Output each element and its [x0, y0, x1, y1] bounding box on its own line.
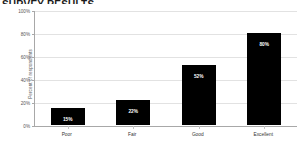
bar-value-label: 80% [247, 42, 281, 47]
y-tick-mark [32, 103, 35, 104]
bar[interactable]: 80% [247, 33, 281, 125]
x-tick-label: Poor [34, 132, 100, 138]
y-tick-mark [32, 80, 35, 81]
chart-figure: SURVEY RESULTS Percent of respondents 0%… [0, 0, 306, 148]
bar[interactable]: 52% [182, 65, 216, 125]
x-tick-mark [68, 126, 69, 129]
bar-value-label: 15% [51, 117, 85, 122]
y-tick-label: 60% [21, 55, 30, 60]
x-tick-label: Good [165, 132, 231, 138]
bar-value-label: 22% [116, 109, 150, 114]
x-tick-label: Fair [100, 132, 166, 138]
y-tick-label: 100% [18, 9, 30, 14]
x-tick-mark [264, 126, 265, 129]
plot-area: 0%20%40%60%80%100% 15%22%52%80% [34, 11, 297, 127]
chart-title: SURVEY RESULTS [2, 0, 94, 4]
y-tick-mark [32, 11, 35, 12]
x-tick-mark [133, 126, 134, 129]
y-tick-label: 20% [21, 101, 30, 106]
y-tick-mark [32, 57, 35, 58]
y-tick-label: 0% [23, 124, 30, 129]
bar[interactable]: 22% [116, 100, 150, 125]
gridline [35, 11, 297, 12]
x-tick-mark [199, 126, 200, 129]
y-tick-mark [32, 34, 35, 35]
bar-value-label: 52% [182, 74, 216, 79]
bar[interactable]: 15% [51, 108, 85, 125]
x-tick-label: Excellent [231, 132, 297, 138]
y-tick-mark [32, 126, 35, 127]
y-tick-label: 40% [21, 78, 30, 83]
y-tick-label: 80% [21, 32, 30, 37]
